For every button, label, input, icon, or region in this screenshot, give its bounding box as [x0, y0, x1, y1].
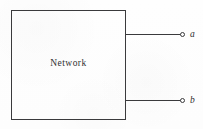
- network-two-terminal-figure: Network a b: [0, 0, 203, 129]
- network-block-label: Network: [11, 58, 126, 68]
- lead-wire-a: [125, 34, 182, 35]
- terminal-label-b: b: [190, 96, 195, 106]
- lead-wire-b: [125, 100, 182, 101]
- terminal-label-a: a: [190, 30, 195, 40]
- terminal-node-a-icon: [180, 32, 185, 37]
- terminal-node-b-icon: [180, 98, 185, 103]
